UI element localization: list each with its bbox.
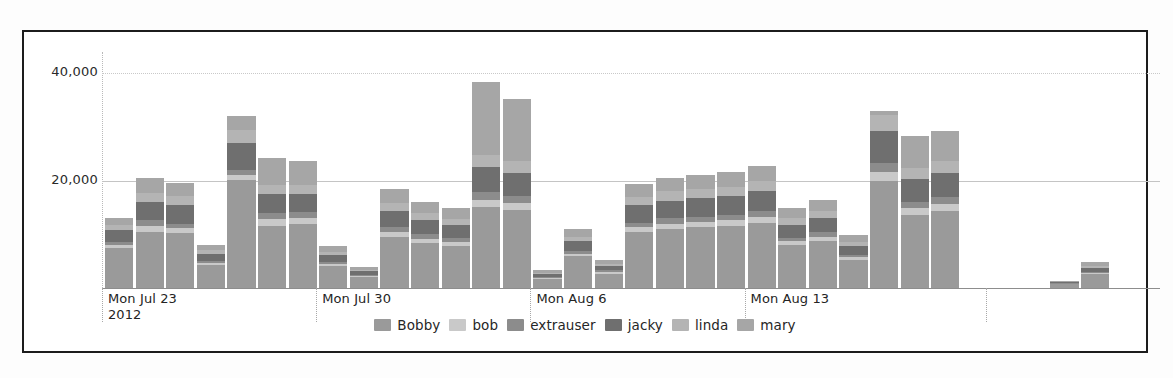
bar-segment-mary[interactable] — [717, 172, 745, 187]
bar-segment-bobby[interactable] — [503, 210, 531, 288]
bar-segment-mary[interactable] — [809, 200, 837, 211]
bar-segment-extrauser[interactable] — [503, 196, 531, 203]
bar-segment-linda[interactable] — [717, 187, 745, 196]
bar-segment-extrauser[interactable] — [870, 163, 898, 172]
bar-segment-bobby[interactable] — [564, 256, 592, 288]
bar-stack[interactable] — [748, 166, 776, 288]
bar-segment-mary[interactable] — [166, 183, 194, 196]
bar-stack[interactable] — [870, 111, 898, 288]
bar-segment-bobby[interactable] — [1081, 274, 1109, 288]
bar-segment-mary[interactable] — [227, 116, 255, 129]
bar-stack[interactable] — [472, 82, 500, 289]
bar-segment-linda[interactable] — [258, 185, 286, 195]
bar-stack[interactable] — [227, 116, 255, 288]
bar-stack[interactable] — [564, 228, 592, 288]
bar-segment-mary[interactable] — [656, 178, 684, 192]
bar-segment-jacky[interactable] — [380, 211, 408, 227]
bar-segment-mary[interactable] — [380, 189, 408, 203]
bar-segment-bobby[interactable] — [472, 207, 500, 288]
bar-segment-jacky[interactable] — [166, 205, 194, 223]
bar-segment-bobby[interactable] — [778, 245, 806, 288]
bar-segment-jacky[interactable] — [656, 201, 684, 219]
bar-stack[interactable] — [197, 245, 225, 288]
bar-stack[interactable] — [778, 208, 806, 288]
bar-segment-bobby[interactable] — [319, 266, 347, 288]
bar-segment-mary[interactable] — [748, 166, 776, 182]
bar-stack[interactable] — [350, 267, 378, 288]
bar-segment-jacky[interactable] — [319, 255, 347, 262]
bar-segment-extrauser[interactable] — [931, 197, 959, 204]
legend-item-mary[interactable]: mary — [737, 317, 795, 333]
bar-stack[interactable] — [1050, 281, 1078, 289]
bar-stack[interactable] — [1081, 262, 1109, 288]
bar-segment-mary[interactable] — [442, 208, 470, 219]
bar-segment-bobby[interactable] — [197, 265, 225, 288]
bar-segment-bobby[interactable] — [809, 241, 837, 288]
bar-segment-bob[interactable] — [472, 200, 500, 208]
bar-stack[interactable] — [289, 161, 317, 288]
bar-stack[interactable] — [166, 183, 194, 288]
bar-stack[interactable] — [686, 175, 714, 288]
bar-segment-linda[interactable] — [656, 191, 684, 200]
bar-segment-bobby[interactable] — [380, 237, 408, 288]
bar-stack[interactable] — [411, 202, 439, 288]
bar-segment-linda[interactable] — [503, 161, 531, 173]
bar-segment-linda[interactable] — [625, 197, 653, 206]
bar-segment-jacky[interactable] — [625, 205, 653, 222]
bar-segment-mary[interactable] — [625, 184, 653, 197]
bar-segment-bobby[interactable] — [227, 180, 255, 288]
bar-segment-mary[interactable] — [778, 208, 806, 218]
bar-stack[interactable] — [809, 200, 837, 289]
bar-segment-bobby[interactable] — [350, 277, 378, 288]
bar-segment-mary[interactable] — [686, 175, 714, 189]
bar-segment-mary[interactable] — [472, 82, 500, 155]
bar-segment-mary[interactable] — [136, 178, 164, 193]
bar-segment-linda[interactable] — [901, 168, 929, 179]
bar-segment-jacky[interactable] — [931, 173, 959, 197]
bar-segment-linda[interactable] — [380, 203, 408, 211]
bar-stack[interactable] — [258, 158, 286, 288]
bar-segment-bobby[interactable] — [289, 224, 317, 288]
legend-item-jacky[interactable]: jacky — [605, 317, 663, 333]
bar-segment-jacky[interactable] — [289, 194, 317, 213]
bar-stack[interactable] — [442, 208, 470, 288]
bar-stack[interactable] — [533, 270, 561, 288]
bar-segment-bobby[interactable] — [717, 226, 745, 288]
bar-segment-mary[interactable] — [931, 131, 959, 161]
bar-segment-mary[interactable] — [564, 229, 592, 237]
bar-stack[interactable] — [625, 184, 653, 288]
bar-segment-bobby[interactable] — [901, 215, 929, 288]
bar-segment-mary[interactable] — [289, 161, 317, 185]
bar-stack[interactable] — [901, 136, 929, 288]
bar-segment-bobby[interactable] — [870, 181, 898, 288]
bar-stack[interactable] — [931, 131, 959, 288]
bar-segment-bobby[interactable] — [258, 226, 286, 288]
legend-item-bobby[interactable]: Bobby — [374, 317, 440, 333]
bar-stack[interactable] — [105, 218, 133, 288]
bar-segment-jacky[interactable] — [136, 202, 164, 220]
bar-segment-jacky[interactable] — [778, 225, 806, 238]
bar-segment-jacky[interactable] — [197, 254, 225, 261]
bar-segment-bob[interactable] — [931, 204, 959, 211]
bar-segment-mary[interactable] — [411, 202, 439, 214]
bar-segment-linda[interactable] — [748, 181, 776, 191]
bar-segment-linda[interactable] — [472, 155, 500, 167]
bar-segment-bobby[interactable] — [166, 233, 194, 288]
legend-item-extrauser[interactable]: extrauser — [507, 317, 596, 333]
legend-item-bob[interactable]: bob — [449, 317, 498, 333]
bar-segment-bob[interactable] — [503, 203, 531, 210]
bar-segment-jacky[interactable] — [839, 246, 867, 255]
bar-segment-jacky[interactable] — [748, 191, 776, 211]
bar-segment-jacky[interactable] — [258, 194, 286, 213]
bar-segment-jacky[interactable] — [105, 230, 133, 242]
bar-segment-jacky[interactable] — [227, 143, 255, 170]
bar-segment-jacky[interactable] — [809, 218, 837, 232]
bar-segment-bobby[interactable] — [411, 243, 439, 288]
bar-segment-bobby[interactable] — [625, 232, 653, 288]
bar-segment-linda[interactable] — [411, 213, 439, 220]
bar-stack[interactable] — [503, 99, 531, 288]
bar-stack[interactable] — [717, 172, 745, 288]
bar-segment-linda[interactable] — [686, 189, 714, 198]
bar-segment-linda[interactable] — [931, 161, 959, 173]
bar-segment-bobby[interactable] — [533, 279, 561, 288]
